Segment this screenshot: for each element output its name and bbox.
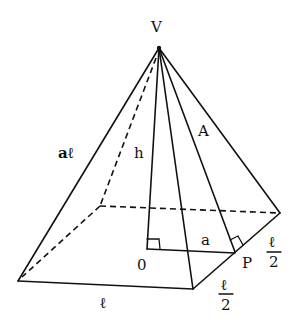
- apothem-line: [159, 48, 235, 252]
- label-inradius: a: [201, 231, 210, 249]
- fraction-front-denominator: 2: [221, 296, 231, 314]
- apex-point: [157, 46, 161, 50]
- edge-v-front-left: [18, 48, 159, 281]
- label-center: 0: [137, 256, 147, 274]
- fraction-back-numerator: ℓ: [269, 233, 275, 251]
- edge-v-back-right: [159, 48, 280, 213]
- fraction-front-numerator: ℓ: [221, 276, 227, 294]
- solid-edges: [18, 48, 280, 289]
- label-height: h: [134, 144, 144, 162]
- fraction-half-side-back: ℓ 2: [267, 233, 281, 271]
- base-back: [100, 206, 280, 213]
- fraction-back-denominator: 2: [269, 253, 279, 271]
- fraction-half-side-front: ℓ 2: [219, 276, 233, 314]
- right-angle-o: [147, 239, 160, 249]
- label-apex: V: [150, 18, 163, 36]
- base-left: [22, 206, 100, 277]
- label-apothem: A: [197, 122, 209, 140]
- label-slant-edge: aℓ: [58, 144, 74, 162]
- dashed-edges: [22, 58, 280, 277]
- label-base-side: ℓ: [100, 294, 106, 312]
- pyramid-diagram: V aℓ h A a 0 P ℓ ℓ 2 ℓ 2: [0, 0, 298, 328]
- base-front: [18, 281, 193, 289]
- label-midpoint: P: [242, 254, 252, 272]
- edge-v-front-right: [159, 48, 193, 289]
